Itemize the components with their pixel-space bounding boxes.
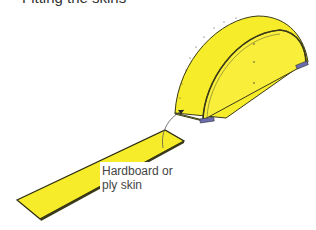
label-line-2: ply skin [102, 178, 173, 192]
skin-fitting-illustration [0, 0, 316, 230]
skin-label: Hardboard or ply skin [100, 162, 176, 194]
label-line-1: Hardboard or [102, 164, 173, 178]
base-block-front [200, 117, 214, 123]
